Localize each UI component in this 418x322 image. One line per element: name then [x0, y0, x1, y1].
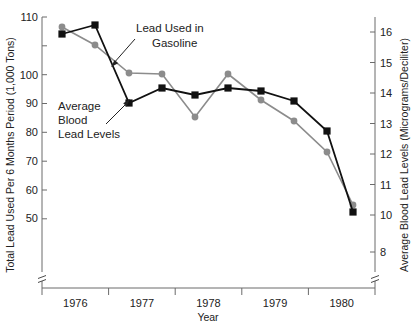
- y-tick-90: 90: [26, 97, 38, 109]
- x-axis-title: Year: [197, 311, 219, 322]
- annotation-blood-line2: Blood: [58, 114, 87, 126]
- chart-figure: 110 100 90 80 70 60 50 Total Lead Used P…: [0, 0, 418, 322]
- y2-tick-16: 16: [380, 26, 392, 38]
- lead-trend-chart: 110 100 90 80 70 60 50 Total Lead Used P…: [0, 0, 418, 322]
- x-tick-1976: 1976: [63, 297, 87, 309]
- y-tick-110: 110: [20, 11, 38, 23]
- x-tick-1978: 1978: [196, 297, 220, 309]
- y2-tick-15: 15: [380, 57, 392, 69]
- y2-tick-14: 14: [380, 87, 392, 99]
- y2-tick-12: 12: [380, 148, 392, 160]
- y-tick-100: 100: [20, 69, 38, 81]
- x-tick-1980: 1980: [329, 297, 353, 309]
- y2-axis-title: Average Blood Lead Levels (Micrograms/De…: [398, 38, 410, 272]
- annotation-blood-line1: Average: [58, 100, 101, 112]
- y2-tick-10: 10: [380, 209, 392, 221]
- y2-tick-11: 11: [380, 179, 391, 191]
- chart-background: [0, 0, 418, 322]
- annotation-blood-line3: Lead Levels: [58, 128, 120, 140]
- y-tick-80: 80: [26, 126, 38, 138]
- x-tick-1977: 1977: [130, 297, 154, 309]
- x-tick-1979: 1979: [263, 297, 287, 309]
- y-tick-60: 60: [26, 184, 38, 196]
- y2-tick-13: 13: [380, 118, 392, 130]
- annotation-gasoline-line1: Lead Used in: [136, 22, 204, 34]
- y-axis-title: Total Lead Used Per 6 Months Period (1,0…: [4, 37, 16, 273]
- annotation-gasoline-line2: Gasoline: [152, 37, 197, 49]
- y2-tick-8: 8: [380, 246, 386, 258]
- y-tick-50: 50: [26, 212, 38, 224]
- y-tick-70: 70: [26, 155, 38, 167]
